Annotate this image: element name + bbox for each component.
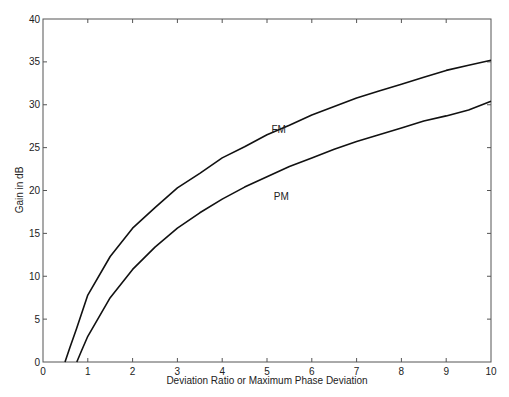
plot-frame xyxy=(43,19,491,362)
y-tick-label: 20 xyxy=(29,185,41,196)
y-tick-label: 35 xyxy=(29,56,41,67)
series-lines xyxy=(65,60,491,362)
y-axis-ticks: 0510152025303540 xyxy=(29,14,491,368)
series-line-fm xyxy=(65,60,491,362)
x-axis-label: Deviation Ratio or Maximum Phase Deviati… xyxy=(166,375,367,386)
y-tick-label: 10 xyxy=(29,271,41,282)
annotation-fm: FM xyxy=(271,124,285,135)
chart-container: 012345678910 0510152025303540 FM PM Devi… xyxy=(0,0,509,397)
x-tick-label: 2 xyxy=(130,366,136,377)
x-tick-label: 1 xyxy=(85,366,91,377)
x-tick-label: 0 xyxy=(40,366,46,377)
series-line-pm xyxy=(77,101,491,362)
x-tick-label: 8 xyxy=(399,366,405,377)
y-tick-label: 40 xyxy=(29,14,41,25)
y-tick-label: 15 xyxy=(29,228,41,239)
y-tick-label: 30 xyxy=(29,99,41,110)
y-axis-label: Gain in dB xyxy=(14,166,25,213)
y-tick-label: 0 xyxy=(34,357,40,368)
x-tick-label: 10 xyxy=(485,366,497,377)
x-tick-label: 9 xyxy=(443,366,449,377)
y-tick-label: 5 xyxy=(34,314,40,325)
y-tick-label: 25 xyxy=(29,142,41,153)
annotation-pm: PM xyxy=(274,191,289,202)
x-axis-ticks: 012345678910 xyxy=(40,19,497,377)
